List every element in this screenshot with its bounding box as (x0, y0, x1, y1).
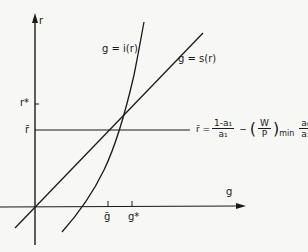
g-axis-label: g (226, 187, 232, 197)
paren-open: ( (250, 121, 256, 137)
fraction-1: 1-a₁ a₁ (212, 118, 234, 139)
equation-lhs: r̄ = (196, 124, 210, 134)
r-axis-label: r (39, 16, 43, 26)
r-bar-label: r̄ (25, 125, 29, 135)
r-bar-equation: r̄ = 1-a₁ a₁ − ( W P ) min a₀ a₁ (196, 118, 308, 139)
savings-curve-label: g = s(r) (178, 54, 216, 64)
fraction-2: W P (258, 118, 271, 139)
subscript-min: min (279, 129, 294, 138)
minus-sign: − (239, 124, 247, 134)
r-star-label: r* (20, 98, 29, 108)
fraction-3: a₀ a₁ (299, 118, 308, 139)
g-bar-label: ḡ (104, 212, 110, 222)
g-axis-arrow-icon (236, 203, 246, 209)
g-star-label: g* (128, 212, 139, 222)
investment-curve-label: g = i(r) (102, 44, 138, 54)
r-axis-arrow-icon (32, 13, 38, 23)
